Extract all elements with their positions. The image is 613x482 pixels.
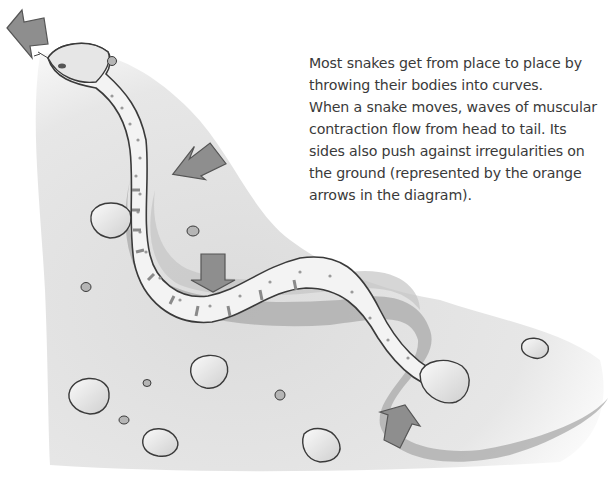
rock (191, 355, 228, 388)
snake-eye (58, 64, 66, 69)
caption-line: When a snake moves, waves of muscular (309, 96, 613, 118)
caption-line: sides also push against irregularities o… (309, 140, 613, 162)
caption-text: Most snakes get from place to place by t… (309, 52, 613, 206)
head-direction-arrow (7, 10, 48, 58)
caption-line: Most snakes get from place to place by (309, 52, 613, 74)
caption-line: contraction flow from head to tail. Its (309, 118, 613, 140)
caption-line: throwing their bodies into curves. (309, 74, 613, 96)
caption-line: arrows in the diagram). (309, 184, 613, 206)
rock (91, 203, 131, 238)
caption-line: the ground (represented by the orange (309, 162, 613, 184)
